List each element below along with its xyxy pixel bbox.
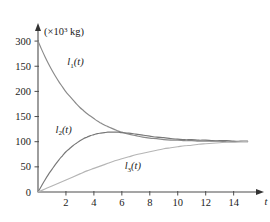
chart-figure: 0501001502001503002468101214t(×103 kg)l1…: [0, 0, 270, 222]
y-tick-label: 300: [15, 36, 31, 47]
chart-plot-area: 0501001502001503002468101214t(×103 kg)l1…: [0, 0, 270, 222]
y-tick-label: 200: [15, 86, 31, 97]
x-tick-label: 4: [91, 197, 97, 208]
y-tick-label: 150: [15, 61, 31, 72]
x-axis-arrow-icon: [256, 189, 264, 195]
x-tick-label: 6: [119, 197, 124, 208]
x-tick-label: 12: [200, 197, 211, 208]
y-axis-arrow-icon: [35, 23, 41, 31]
curve-label-2: l2(t): [55, 124, 72, 137]
x-axis-label: t: [265, 196, 269, 207]
curve-label-3: l3(t): [125, 160, 142, 173]
curve-label-1: l1(t): [67, 56, 84, 69]
y-tick-label: 100: [15, 136, 31, 147]
y-axis-unit-label: (×103 kg): [44, 26, 85, 38]
curve-2: [38, 132, 248, 192]
y-tick-label: 0: [26, 187, 31, 198]
x-tick-label: 8: [147, 197, 152, 208]
x-tick-label: 14: [228, 197, 239, 208]
x-tick-label: 2: [63, 197, 68, 208]
x-tick-label: 10: [172, 197, 183, 208]
y-tick-label: 50: [21, 161, 32, 172]
y-tick-label: 150: [15, 111, 31, 122]
